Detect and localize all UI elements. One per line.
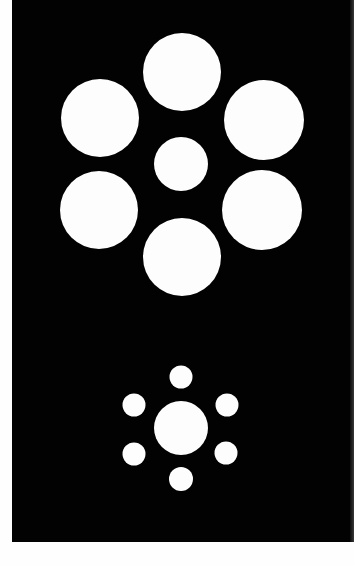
surround-circle [60,171,138,249]
center-circle [154,401,208,455]
surround-circle [123,443,146,466]
surround-circle [215,442,238,465]
surround-circle [143,218,221,296]
small-surround-cluster [123,366,239,492]
circle-figure [0,0,354,566]
surround-circle [61,79,139,157]
surround-circle [224,80,304,160]
center-circle [154,137,208,191]
surround-circle [143,33,221,111]
surround-circle [222,170,302,250]
surround-circle [170,366,193,389]
illusion-image [0,0,354,566]
surround-circle [216,394,239,417]
large-surround-cluster [60,33,304,296]
surround-circle [169,467,193,491]
surround-circle [123,394,146,417]
